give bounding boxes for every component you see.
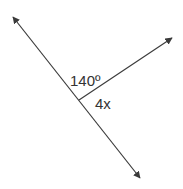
transversal-line <box>13 17 140 178</box>
upper-angle-label: 140º <box>70 72 101 89</box>
angle-ray <box>79 38 172 100</box>
lower-angle-label: 4x <box>95 95 111 112</box>
angle-diagram: 140º 4x <box>0 0 183 189</box>
